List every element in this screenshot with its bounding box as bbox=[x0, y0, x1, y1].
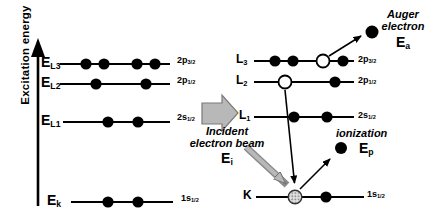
electron-dot bbox=[98, 58, 109, 69]
level-symbol: E bbox=[47, 192, 56, 208]
electron-dot bbox=[80, 58, 91, 69]
electron-dot bbox=[102, 116, 113, 127]
axis-label: Excitation energy bbox=[19, 4, 31, 106]
level-subscript: 3 bbox=[243, 58, 247, 67]
level-label-EL2: EL2 bbox=[41, 75, 60, 92]
orbital-subscript: 1/2 bbox=[377, 193, 385, 199]
orbital-label-2p32-right: 2p3/2 bbox=[358, 55, 376, 65]
electron-dot bbox=[269, 55, 280, 66]
orbital-label-2p12-right: 2p1/2 bbox=[358, 76, 376, 86]
electron-vacancy-circle bbox=[317, 55, 330, 68]
orbital-subscript: 1/2 bbox=[368, 114, 376, 120]
incident-energy-symbol: Ei bbox=[183, 151, 271, 168]
orbital-symbol: 2p bbox=[177, 75, 188, 85]
electron-vacancy-circle bbox=[279, 76, 292, 89]
energy-subscript: a bbox=[405, 41, 410, 51]
level-subscript: L1 bbox=[50, 119, 60, 129]
orbital-symbol: 2p bbox=[358, 54, 369, 64]
auger-energy-symbol: Ea bbox=[374, 35, 432, 52]
orbital-label-2p32-left: 2p3/2 bbox=[177, 56, 195, 66]
level-label-L3: L3 bbox=[236, 53, 247, 67]
level-symbol: E bbox=[41, 54, 50, 70]
electron-dot bbox=[287, 55, 298, 66]
level-subscript: 1 bbox=[246, 114, 250, 123]
orbital-symbol: 2p bbox=[177, 55, 188, 65]
orbital-symbol: 1s bbox=[181, 193, 191, 203]
auger-label-line1: Auger bbox=[374, 8, 432, 20]
electron-dot bbox=[131, 58, 142, 69]
orbital-label-2s12-left: 2s1/2 bbox=[177, 113, 195, 123]
level-subscript: L3 bbox=[50, 61, 60, 71]
energy-symbol: E bbox=[396, 34, 405, 50]
orbital-label-2p12-left: 2p1/2 bbox=[177, 76, 195, 86]
auger-emission-arrow bbox=[329, 36, 361, 56]
energy-subscript: p bbox=[368, 147, 373, 157]
l2-to-k-decay-arrow bbox=[285, 90, 295, 183]
electron-dot bbox=[337, 55, 348, 66]
energy-subscript: i bbox=[230, 157, 232, 167]
level-label-L2: L2 bbox=[236, 74, 247, 88]
level-label-Ek: Ek bbox=[47, 193, 61, 210]
electron-dot bbox=[329, 76, 340, 87]
orbital-symbol: 2s bbox=[358, 110, 368, 120]
auger-energy-diagram: Excitation energy EL3 EL2 EL1 Ek 2p3/2 2… bbox=[0, 0, 442, 218]
energy-symbol: E bbox=[359, 140, 368, 156]
level-symbol: K bbox=[243, 188, 252, 202]
orbital-subscript: 1/2 bbox=[188, 79, 196, 85]
orbital-subscript: 3/2 bbox=[188, 59, 196, 65]
electron-dot bbox=[140, 78, 151, 89]
level-label-EL1: EL1 bbox=[41, 113, 60, 130]
level-subscript: 2 bbox=[243, 79, 247, 88]
orbital-label-1s12-left: 1s1/2 bbox=[181, 194, 199, 204]
level-label-EL3: EL3 bbox=[41, 55, 60, 72]
level-symbol: E bbox=[41, 112, 50, 128]
incident-beam-annotation: Incident electron beam Ei bbox=[183, 125, 271, 168]
ionization-label: ionization bbox=[336, 127, 387, 139]
incident-label-line1: Incident bbox=[183, 125, 271, 137]
electron-dot bbox=[149, 58, 160, 69]
electron-dot bbox=[102, 196, 113, 207]
electron-dot bbox=[288, 111, 299, 122]
orbital-symbol: 2s bbox=[177, 112, 187, 122]
orbital-subscript: 1/2 bbox=[187, 116, 195, 122]
level-symbol: E bbox=[41, 74, 50, 90]
auger-electron-annotation: Auger electron Ea bbox=[374, 8, 432, 52]
level-subscript: k bbox=[56, 199, 61, 209]
auger-label-line2: electron bbox=[374, 20, 432, 32]
level-subscript: L2 bbox=[50, 81, 60, 91]
ionized-electron-dot bbox=[335, 142, 347, 154]
level-label-L1: L1 bbox=[239, 109, 250, 123]
orbital-subscript: 1/2 bbox=[191, 197, 199, 203]
orbital-symbol: 1s bbox=[367, 189, 377, 199]
orbital-subscript: 1/2 bbox=[369, 79, 377, 85]
incident-label-line2: electron beam bbox=[183, 137, 271, 149]
orbital-label-2s12-right: 2s1/2 bbox=[358, 111, 376, 121]
ionization-arrow bbox=[300, 159, 330, 189]
electron-dot bbox=[321, 111, 332, 122]
orbital-symbol: 2p bbox=[358, 75, 369, 85]
core-hole-circle bbox=[288, 190, 302, 204]
electron-dot bbox=[320, 191, 331, 202]
ionization-energy-symbol: Ep bbox=[359, 141, 374, 158]
electron-dot bbox=[132, 196, 143, 207]
orbital-subscript: 3/2 bbox=[369, 58, 377, 64]
electron-dot bbox=[132, 116, 143, 127]
orbital-label-1s12-right: 1s1/2 bbox=[367, 190, 385, 200]
electron-dot bbox=[90, 78, 101, 89]
level-label-K: K bbox=[243, 189, 252, 203]
